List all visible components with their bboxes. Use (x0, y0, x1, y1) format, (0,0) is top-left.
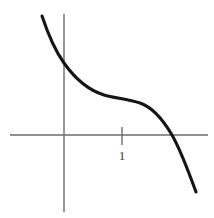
x-tick-label-1: 1 (119, 149, 126, 162)
plot-canvas (0, 0, 214, 218)
figure-container: 1 (0, 0, 214, 218)
curve-line (42, 16, 196, 192)
